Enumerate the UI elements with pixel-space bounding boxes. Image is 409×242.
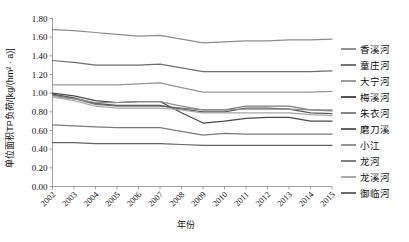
x-tick-label: 2011 [232,189,251,208]
y-tick-label: 1.00 [32,88,48,98]
y-tick-label: 1.20 [32,70,48,80]
legend-item-label: 梅溪河 [360,92,390,103]
series-line [53,61,333,72]
x-axis-title: 年份 [177,219,195,230]
x-tick-label: 2005 [103,189,122,208]
x-tick-label: 2007 [146,189,165,208]
x-tick-label: 2012 [253,189,272,208]
legend-item-label: 朱衣河 [360,108,390,119]
y-tick-label: 1.60 [32,32,48,42]
x-tick-label: 2015 [318,189,337,208]
legend-item-label: 磨刀溪 [360,124,390,135]
x-tick-label: 2003 [60,189,79,208]
x-tick-label: 2014 [296,189,316,209]
x-tick-label: 2013 [275,189,294,208]
series-line [53,125,333,135]
legend-item-label: 御临河 [360,188,390,199]
legend-item-label: 龙河 [360,156,380,167]
legend-item-label: 童庄河 [360,60,390,71]
x-axis-tick-marks [53,187,333,190]
chart-legend: 香溪河童庄河大宁河梅溪河朱衣河磨刀溪小江龙河龙溪河御临河 [341,44,390,199]
chart-container: 单位面积TP负荷/[kg/(hm² · a)] 0.000.200.400.60… [0,0,409,242]
y-axis-title-label: 单位面积TP负荷/[kg/(hm² · a)] [4,48,15,168]
y-tick-label: 0.60 [32,126,48,136]
legend-item-label: 龙溪河 [360,172,390,183]
series-line [53,30,333,43]
x-tick-label: 2010 [210,189,229,208]
legend-item-label: 大宁河 [360,76,390,87]
y-tick-label: 0.00 [32,182,48,192]
legend-item-label: 小江 [360,140,380,151]
x-tick-label: 2008 [167,189,186,208]
y-tick-label: 0.20 [32,163,48,173]
y-tick-label: 0.80 [32,107,48,117]
x-axis-tick-labels: 2002200320042005200620072008200920102011… [38,189,337,209]
x-tick-label: 2004 [81,189,101,209]
series-lines-group [53,30,333,146]
x-axis-title-label: 年份 [177,219,195,230]
series-line [53,83,333,92]
x-tick-label: 2009 [189,189,208,208]
y-tick-label: 1.40 [32,51,48,61]
legend-item-label: 香溪河 [360,44,390,55]
series-line [53,143,333,146]
y-axis-title: 单位面积TP负荷/[kg/(hm² · a)] [4,48,15,168]
y-axis-tick-marks [50,19,53,187]
line-chart: 单位面积TP负荷/[kg/(hm² · a)] 0.000.200.400.60… [0,0,409,242]
y-axis-tick-labels: 0.000.200.400.600.801.001.201.401.601.80 [32,14,48,192]
x-tick-label: 2002 [38,189,57,208]
x-tick-label: 2006 [124,189,143,208]
y-tick-label: 1.80 [32,14,48,24]
y-tick-label: 0.40 [32,144,48,154]
